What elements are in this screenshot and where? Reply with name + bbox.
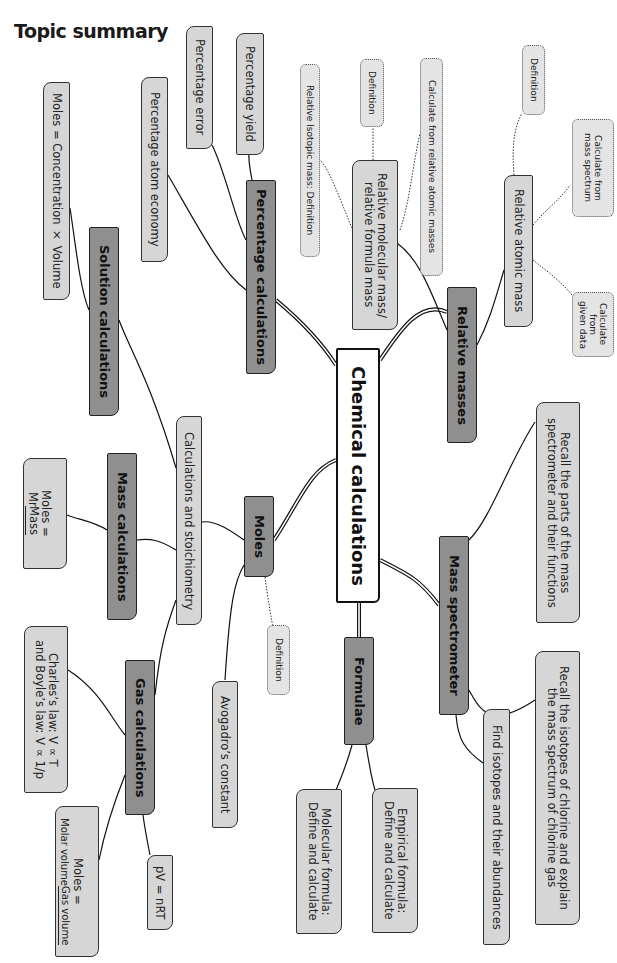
node-relative-isotopic-mass-definition: Relative Isotopic mass: Definition [300,64,320,257]
fraction: Mass Mr [25,492,40,536]
branch-moles: Moles [244,496,274,577]
node-moles-definition: Definition [267,625,290,695]
numerator: Mass [25,506,40,535]
denominator: Mr [26,492,39,507]
node-ram-calc-given-data: Calculate from given data [572,292,614,357]
branch-percentage-calculations: Percentage calculations [246,180,276,374]
node-charles-boyles-law: Charles’s law: V ∝ T and Boyle’s law: V … [24,626,68,793]
node-moles-mass-mr: Moles = Mass Mr [23,458,67,569]
branch-solution-calculations: Solution calculations [89,227,119,416]
node-ram-calc-mass-spectrum: Calculate from mass spectrum [572,119,614,217]
node-recall-parts-mass-spectrometer: Recall the parts of the mass spectromete… [536,402,580,623]
branch-mass-calculations: Mass calculations [107,453,137,620]
node-ram-definition: Definition [522,45,545,115]
node-molecular-formula: Molecular formula: Define and calculate [296,789,342,934]
node-moles-concentration-volume: Moles = Concentration × Volume [43,82,70,300]
node-percentage-atom-economy: Percentage atom economy [141,77,168,262]
branch-formulae: Formulae [344,637,374,745]
node-rmm-definition: Definition [360,59,384,127]
fraction: Gas volume Molar volume [58,818,71,945]
center-node-chemical-calculations: Chemical calculations [336,348,380,603]
node-moles-gas-volume: Moles = Gas volume Molar volume [55,806,99,957]
node-empirical-formula: Empirical formula: Define and calculate [372,788,418,933]
node-recall-isotopes-chlorine: Recall the isotopes of chlorine and expl… [535,651,580,925]
formula-lhs: Moles = [71,858,85,905]
node-relative-atomic-mass: Relative atomic mass [504,175,533,327]
node-percentage-yield: Percentage yield [236,33,264,155]
node-find-isotopes-abundances: Find isotopes and their abundances [483,709,510,945]
numerator: Gas volume [58,886,71,945]
branch-relative-masses: Relative masses [447,287,477,443]
node-rmm-calc-from-atomic-masses: Calculate from relative atomic masses [420,58,443,276]
node-calculations-stoichiometry: Calculations and stoichiometry [176,416,202,625]
node-avogadros-constant: Avogadro’s constant [212,681,238,828]
branch-gas-calculations: Gas calculations [125,660,155,815]
node-percentage-error: Percentage error [186,26,213,149]
denominator: Molar volume [59,818,70,886]
node-pv-nrt: pV = nRT [147,855,173,930]
branch-mass-spectrometer: Mass spectrometer [439,536,469,715]
formula-lhs: Moles = [39,490,53,537]
node-relative-molecular-mass: Relative molecular mass/ relative formul… [352,160,398,330]
